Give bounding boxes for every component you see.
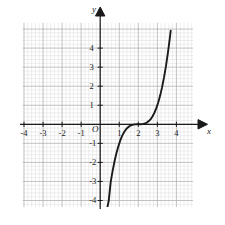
y-tick-label: -4: [84, 196, 102, 205]
y-tick-label: 3: [83, 63, 101, 72]
x-tick-label: -3: [34, 129, 52, 138]
x-tick-label: -2: [53, 129, 71, 138]
x-tick-label: 1: [110, 129, 128, 138]
y-axis-arrow-icon: [96, 7, 105, 16]
axes: [20, 7, 208, 209]
x-axis-label: x: [207, 127, 211, 136]
x-tick-label: 2: [129, 129, 147, 138]
y-axis-label: y: [92, 5, 96, 14]
y-tick-label: 1: [83, 101, 101, 110]
coordinate-plane: [0, 0, 225, 225]
origin-label: O: [92, 125, 99, 134]
y-tick-label: -3: [84, 177, 102, 186]
y-tick-label: -1: [84, 139, 102, 148]
y-tick-label: 4: [83, 44, 101, 53]
x-tick-label: 3: [148, 129, 166, 138]
y-tick-label: -2: [84, 158, 102, 167]
y-tick-label: 2: [83, 82, 101, 91]
x-tick-label: 4: [167, 129, 185, 138]
x-tick-label: -1: [72, 129, 90, 138]
graph-figure: y x O -4-3-2-112341234-1-2-3-4: [0, 0, 225, 225]
x-tick-label: -4: [15, 129, 33, 138]
